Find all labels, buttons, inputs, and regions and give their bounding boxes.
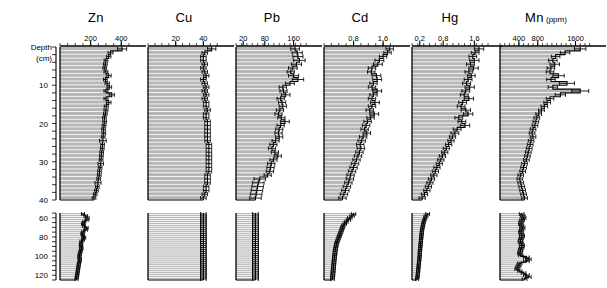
profile-panel-mn: Mn (ppm)4008001600 xyxy=(0,0,607,288)
sediment-core-depth-profiles-figure: Depth(cm)102030406080100120 Zn200400Cu20… xyxy=(0,0,607,288)
profile-plot-mn xyxy=(0,0,607,288)
